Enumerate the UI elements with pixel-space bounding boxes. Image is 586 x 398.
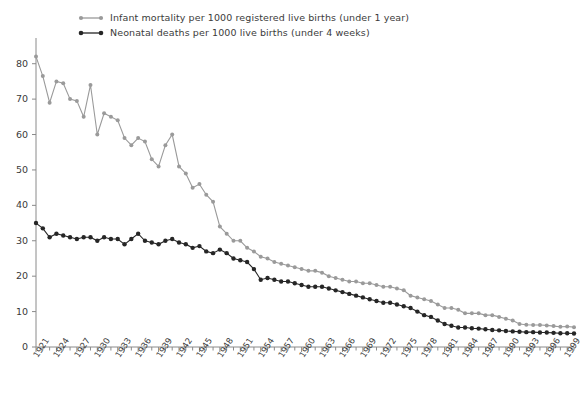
legend-marker-infant-mortality <box>78 13 104 23</box>
y-tick-label: 30 <box>6 235 28 246</box>
legend-item-neonatal-deaths: Neonatal deaths per 1000 live births (un… <box>78 25 409 40</box>
series-neonatal-deaths <box>34 221 576 336</box>
y-tick-label: 10 <box>6 306 28 317</box>
legend-label-infant-mortality: Infant mortality per 1000 registered liv… <box>110 10 409 25</box>
y-tick-label: 0 <box>6 341 28 352</box>
legend-item-infant-mortality: Infant mortality per 1000 registered liv… <box>78 10 409 25</box>
y-tick-label: 60 <box>6 129 28 140</box>
y-tick-label: 40 <box>6 199 28 210</box>
chart-legend: Infant mortality per 1000 registered liv… <box>78 10 409 40</box>
series-infant-mortality <box>34 55 576 330</box>
y-tick-label: 20 <box>6 270 28 281</box>
y-tick-label: 70 <box>6 93 28 104</box>
y-tick-label: 50 <box>6 164 28 175</box>
figure: Infant mortality per 1000 registered liv… <box>0 0 586 398</box>
y-tick-label: 80 <box>6 58 28 69</box>
legend-label-neonatal-deaths: Neonatal deaths per 1000 live births (un… <box>110 25 370 40</box>
legend-marker-neonatal-deaths <box>78 28 104 38</box>
figure-caption <box>0 389 586 398</box>
